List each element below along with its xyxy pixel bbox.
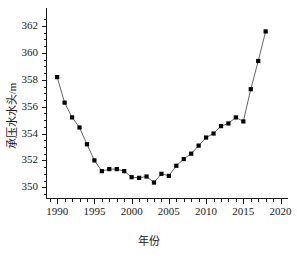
data-point-marker (137, 176, 141, 180)
data-point-marker (115, 167, 119, 171)
data-point-marker (130, 175, 134, 179)
data-point-marker (182, 157, 186, 161)
data-series (55, 29, 268, 184)
data-point-marker (144, 174, 148, 178)
y-tick-label: 362 (4, 20, 38, 31)
data-point-marker (226, 121, 230, 125)
x-tick-label: 2020 (261, 206, 297, 217)
data-point-marker (152, 180, 156, 184)
chart-container: 350352354356358360362 199019952000200520… (0, 0, 297, 256)
series-line (57, 31, 265, 182)
data-point-marker (211, 131, 215, 135)
data-point-marker (249, 87, 253, 91)
x-tick-label: 1990 (37, 206, 77, 217)
x-tick-label: 2005 (149, 206, 189, 217)
data-point-marker (204, 135, 208, 139)
data-point-marker (174, 164, 178, 168)
data-point-marker (92, 158, 96, 162)
data-point-marker (234, 115, 238, 119)
chart-canvas (0, 0, 297, 256)
data-point-marker (100, 169, 104, 173)
x-tick-label: 2000 (112, 206, 152, 217)
data-point-marker (159, 172, 163, 176)
data-point-marker (55, 75, 59, 79)
data-point-marker (189, 152, 193, 156)
x-axis-title: 年份 (0, 232, 297, 248)
data-point-marker (77, 125, 81, 129)
data-point-marker (167, 174, 171, 178)
data-point-marker (256, 59, 260, 63)
data-point-marker (122, 169, 126, 173)
data-point-marker (70, 115, 74, 119)
y-axis-title: 承压水水头/m (3, 71, 19, 161)
data-point-marker (264, 29, 268, 33)
x-tick-label: 2010 (186, 206, 226, 217)
y-tick-label: 350 (4, 181, 38, 192)
x-tick-label: 1995 (74, 206, 114, 217)
data-point-marker (107, 167, 111, 171)
data-point-marker (219, 124, 223, 128)
data-point-marker (85, 142, 89, 146)
x-tick-label: 2015 (223, 206, 263, 217)
y-tick-label: 360 (4, 47, 38, 58)
data-point-marker (197, 144, 201, 148)
data-point-marker (241, 119, 245, 123)
plot-area (0, 0, 297, 256)
data-point-marker (63, 101, 67, 105)
axes (42, 8, 289, 204)
